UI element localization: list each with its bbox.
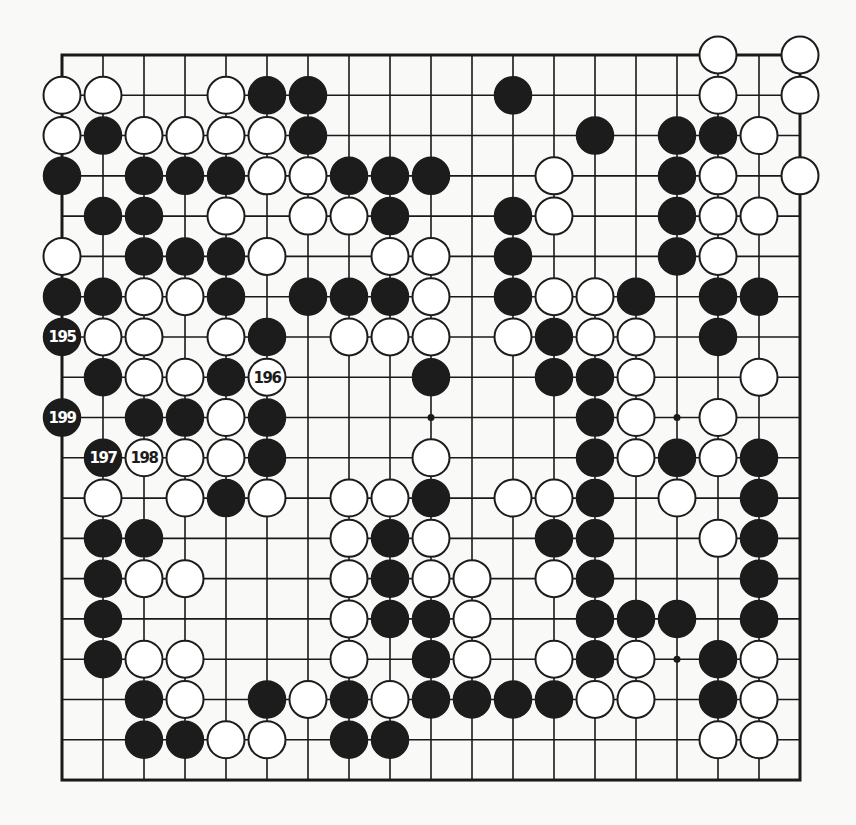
- white-stone[interactable]: [44, 238, 81, 275]
- white-stone[interactable]: [741, 641, 778, 678]
- white-stone[interactable]: [618, 318, 655, 355]
- black-stone[interactable]: [85, 641, 122, 678]
- white-stone[interactable]: [413, 560, 450, 597]
- white-stone[interactable]: [618, 681, 655, 718]
- black-stone[interactable]: [536, 681, 573, 718]
- black-stone[interactable]: [249, 439, 286, 476]
- black-stone[interactable]: [208, 480, 245, 517]
- black-stone[interactable]: [618, 278, 655, 315]
- white-stone[interactable]: [167, 681, 204, 718]
- white-stone[interactable]: [372, 480, 409, 517]
- white-stone[interactable]: [659, 480, 696, 517]
- black-stone[interactable]: [577, 117, 614, 154]
- white-stone[interactable]: [782, 77, 819, 114]
- white-stone[interactable]: [167, 439, 204, 476]
- white-stone[interactable]: [290, 157, 327, 194]
- black-stone[interactable]: [700, 117, 737, 154]
- black-stone[interactable]: [290, 117, 327, 154]
- black-stone[interactable]: [741, 560, 778, 597]
- white-stone[interactable]: [536, 198, 573, 235]
- white-stone[interactable]: [741, 721, 778, 758]
- white-stone[interactable]: [618, 359, 655, 396]
- black-stone[interactable]: [577, 520, 614, 557]
- white-stone[interactable]: [208, 318, 245, 355]
- black-stone[interactable]: [208, 238, 245, 275]
- black-stone[interactable]: [659, 157, 696, 194]
- black-stone[interactable]: [413, 480, 450, 517]
- white-stone[interactable]: [372, 238, 409, 275]
- black-stone[interactable]: [126, 198, 163, 235]
- black-stone[interactable]: [700, 641, 737, 678]
- white-stone[interactable]: [700, 157, 737, 194]
- black-stone[interactable]: [413, 641, 450, 678]
- white-stone[interactable]: [85, 318, 122, 355]
- white-stone[interactable]: [249, 721, 286, 758]
- white-stone[interactable]: [536, 641, 573, 678]
- black-stone[interactable]: [577, 399, 614, 436]
- white-stone[interactable]: [167, 359, 204, 396]
- black-stone[interactable]: [413, 600, 450, 637]
- white-stone[interactable]: [454, 600, 491, 637]
- white-stone[interactable]: [741, 198, 778, 235]
- black-stone[interactable]: [741, 439, 778, 476]
- white-stone[interactable]: [577, 278, 614, 315]
- black-stone[interactable]: [577, 600, 614, 637]
- white-stone[interactable]: [618, 399, 655, 436]
- black-stone[interactable]: [372, 520, 409, 557]
- white-stone[interactable]: [536, 157, 573, 194]
- black-stone[interactable]: [208, 359, 245, 396]
- black-stone[interactable]: [372, 157, 409, 194]
- white-stone[interactable]: [536, 480, 573, 517]
- black-stone[interactable]: [249, 681, 286, 718]
- white-stone[interactable]: [249, 157, 286, 194]
- black-stone[interactable]: [208, 278, 245, 315]
- black-stone[interactable]: [536, 359, 573, 396]
- black-stone[interactable]: [536, 520, 573, 557]
- white-stone[interactable]: [700, 77, 737, 114]
- white-stone[interactable]: [290, 198, 327, 235]
- white-stone[interactable]: [413, 318, 450, 355]
- white-stone[interactable]: [700, 37, 737, 74]
- black-stone[interactable]: [290, 278, 327, 315]
- black-stone[interactable]: [495, 198, 532, 235]
- black-stone[interactable]: [167, 238, 204, 275]
- black-stone[interactable]: [331, 278, 368, 315]
- white-stone[interactable]: [536, 560, 573, 597]
- black-stone[interactable]: [126, 721, 163, 758]
- black-stone[interactable]: [700, 278, 737, 315]
- black-stone[interactable]: [495, 681, 532, 718]
- black-stone[interactable]: [167, 721, 204, 758]
- white-stone[interactable]: [208, 77, 245, 114]
- white-stone[interactable]: [413, 520, 450, 557]
- white-stone[interactable]: [126, 560, 163, 597]
- go-board[interactable]: 195196197198199: [0, 0, 856, 825]
- black-stone[interactable]: [618, 600, 655, 637]
- white-stone[interactable]: [208, 198, 245, 235]
- black-stone[interactable]: [167, 157, 204, 194]
- white-stone[interactable]: [44, 117, 81, 154]
- white-stone[interactable]: [495, 318, 532, 355]
- white-stone[interactable]: [331, 520, 368, 557]
- white-stone[interactable]: [331, 600, 368, 637]
- black-stone[interactable]: [659, 439, 696, 476]
- black-stone[interactable]: [659, 238, 696, 275]
- white-stone[interactable]: [126, 641, 163, 678]
- black-stone[interactable]: [577, 359, 614, 396]
- black-stone[interactable]: [331, 681, 368, 718]
- black-stone[interactable]: [372, 560, 409, 597]
- white-stone[interactable]: [208, 399, 245, 436]
- black-stone[interactable]: [536, 318, 573, 355]
- black-stone[interactable]: [44, 278, 81, 315]
- white-stone[interactable]: [741, 117, 778, 154]
- white-stone[interactable]: [44, 77, 81, 114]
- white-stone[interactable]: [249, 480, 286, 517]
- white-stone[interactable]: [700, 439, 737, 476]
- black-stone[interactable]: [495, 238, 532, 275]
- white-stone[interactable]: [126, 117, 163, 154]
- white-stone[interactable]: [249, 117, 286, 154]
- black-stone[interactable]: [167, 399, 204, 436]
- white-stone[interactable]: [208, 439, 245, 476]
- black-stone[interactable]: [85, 560, 122, 597]
- black-stone[interactable]: [577, 641, 614, 678]
- white-stone[interactable]: [577, 318, 614, 355]
